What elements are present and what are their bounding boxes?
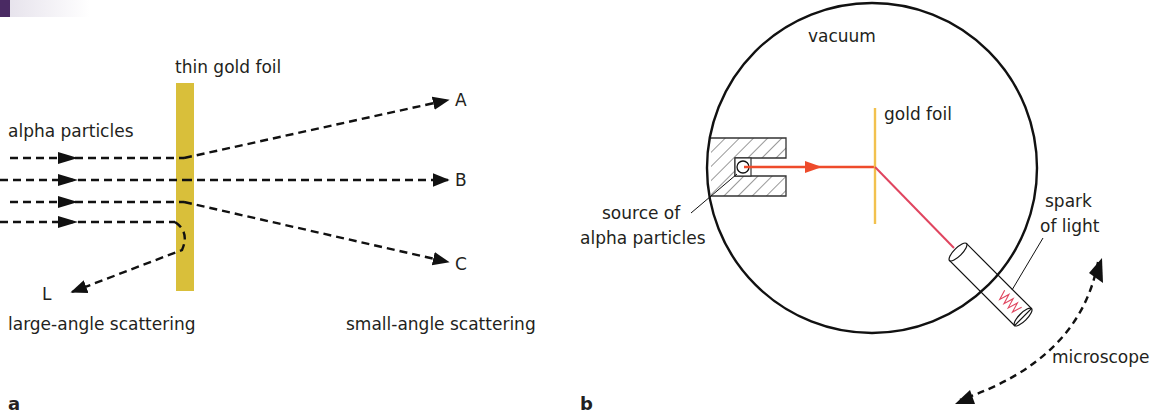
large-angle-scattering-label: large-angle scattering (8, 314, 195, 334)
microscope-tube (947, 241, 1035, 329)
path-label-a: A (455, 90, 467, 110)
beam-arrowhead-icon (805, 161, 822, 173)
rotation-arrowhead-up-icon (1089, 258, 1103, 283)
arrowhead-icon (58, 174, 78, 186)
panel-a: thin gold foil alpha particles A B C L l… (0, 57, 536, 414)
panel-b-label: b (580, 393, 593, 414)
alpha-particles-label: alpha particles (8, 121, 134, 141)
panel-b: vacuum gold foil spark of light source o… (580, 3, 1150, 414)
path-label-l: L (42, 284, 52, 304)
gold-foil-label: gold foil (884, 104, 952, 124)
path-label-b: B (455, 170, 467, 190)
arrowhead-icon (58, 216, 78, 228)
microscope-label: microscope (1052, 347, 1150, 367)
source-label-line2: alpha particles (580, 228, 706, 248)
path-label-c: C (455, 254, 467, 274)
panel-a-label: a (8, 393, 20, 414)
path-a-deflection (184, 100, 448, 158)
source-label-line1: source of (602, 203, 681, 223)
vacuum-label: vacuum (808, 26, 876, 46)
arrowhead-icon (58, 152, 78, 164)
path-l-backscatter (72, 222, 185, 292)
rotation-path (960, 262, 1098, 400)
thin-gold-foil-label: thin gold foil (175, 57, 281, 77)
spark-label-line2: of light (1040, 216, 1100, 236)
arrowhead-icon (58, 196, 78, 208)
gold-foil-strip (176, 83, 194, 291)
rotation-arrowhead-down-icon (955, 390, 975, 404)
spark-label-line1: spark (1045, 191, 1092, 211)
scattered-beam (875, 167, 954, 248)
path-c-deflection (184, 202, 448, 262)
spark-icon (998, 290, 1022, 314)
small-angle-scattering-label: small-angle scattering (346, 314, 536, 334)
